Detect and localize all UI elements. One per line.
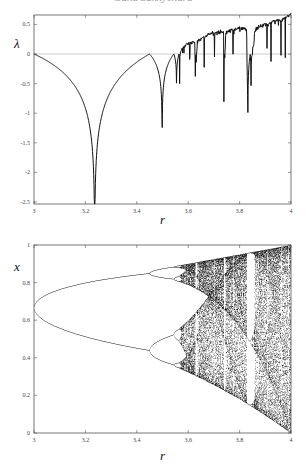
svg-text:4: 4 bbox=[290, 208, 293, 214]
svg-text:3.6: 3.6 bbox=[184, 208, 192, 214]
svg-text:3.8: 3.8 bbox=[236, 208, 244, 214]
bifurcation-diagram: 33.23.43.63.8410.80.60.40.20 x r bbox=[13, 242, 293, 463]
y-axis-label: x bbox=[13, 259, 20, 274]
svg-text:3.4: 3.4 bbox=[133, 208, 141, 214]
svg-text:-1: -1 bbox=[25, 110, 30, 116]
svg-text:0.2: 0.2 bbox=[23, 392, 31, 398]
svg-text:3.2: 3.2 bbox=[82, 437, 90, 443]
svg-text:4: 4 bbox=[290, 437, 293, 443]
svg-text:0: 0 bbox=[27, 51, 30, 57]
figure: 33.23.43.63.840.50-0.5-1-1.5-2-2.5 λ r 3… bbox=[0, 0, 306, 467]
svg-text:3.2: 3.2 bbox=[82, 208, 90, 214]
svg-text:0: 0 bbox=[27, 430, 30, 436]
svg-text:0.6: 0.6 bbox=[23, 317, 31, 323]
svg-text:3.4: 3.4 bbox=[133, 437, 141, 443]
svg-text:0.4: 0.4 bbox=[23, 355, 31, 361]
lyapunov-exponent-chart: 33.23.43.63.840.50-0.5-1-1.5-2-2.5 λ r bbox=[13, 13, 293, 227]
svg-text:3: 3 bbox=[33, 208, 36, 214]
bifurcation-points bbox=[34, 245, 292, 433]
bifurcation-point-cloud bbox=[34, 245, 292, 433]
y-axis-label: λ bbox=[13, 36, 20, 51]
svg-text:1: 1 bbox=[27, 242, 30, 248]
svg-text:-1.5: -1.5 bbox=[21, 140, 31, 146]
svg-text:0.8: 0.8 bbox=[23, 280, 31, 286]
axis-ticks: 33.23.43.63.8410.80.60.40.20 bbox=[23, 242, 293, 443]
axis-ticks: 33.23.43.63.840.50-0.5-1-1.5-2-2.5 bbox=[21, 15, 293, 214]
svg-text:-2.5: -2.5 bbox=[21, 199, 31, 205]
svg-text:3.6: 3.6 bbox=[184, 437, 192, 443]
svg-text:3: 3 bbox=[33, 437, 36, 443]
lyapunov-curve bbox=[34, 13, 291, 204]
x-axis-label: r bbox=[160, 212, 166, 227]
x-axis-label: r bbox=[160, 448, 166, 463]
svg-text:0.5: 0.5 bbox=[23, 21, 31, 27]
svg-text:-0.5: -0.5 bbox=[21, 81, 31, 87]
svg-text:-2: -2 bbox=[25, 169, 30, 175]
svg-text:3.8: 3.8 bbox=[236, 437, 244, 443]
